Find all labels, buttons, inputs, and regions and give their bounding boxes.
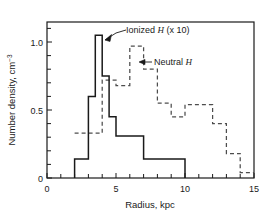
y-axis-label: Number density, cm−3: [6, 54, 18, 146]
x-tick-label-10: 10: [180, 184, 190, 194]
number-density-vs-radius-chart: Ionized H (x 10) Neutral H 1.0 0.5 0 0 5…: [0, 0, 274, 219]
annotation-neutral-h-text: Neutral H: [154, 57, 193, 67]
y-tick-label-0point5: 0.5: [30, 106, 43, 116]
y-tick-label-1: 1.0: [30, 38, 43, 48]
y-tick-label-0: 0: [38, 174, 43, 184]
x-tick-label-15: 15: [249, 184, 259, 194]
x-axis-label: Radius, kpc: [125, 199, 175, 210]
x-tick-label-0: 0: [44, 184, 49, 194]
x-tick-label-5: 5: [113, 184, 118, 194]
annotation-ionized-h-text: Ionized H (x 10): [126, 25, 190, 35]
